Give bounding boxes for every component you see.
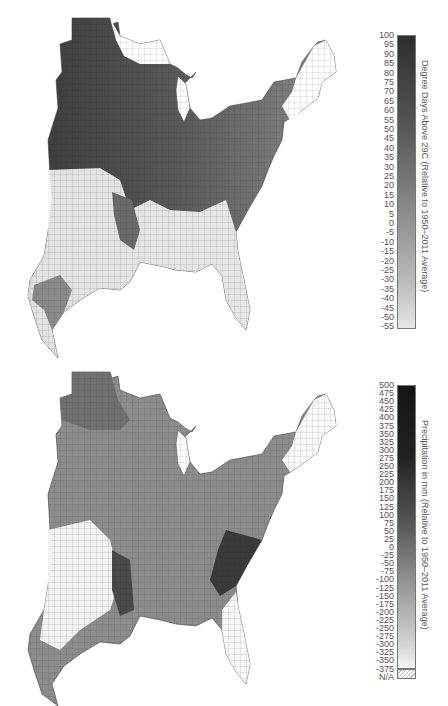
na-label: N/A <box>379 673 394 682</box>
precipitation-colorbar <box>397 385 416 669</box>
tick-label: 60 <box>384 106 394 115</box>
degree-days-colorbar <box>397 35 416 329</box>
tick-label: 85 <box>384 59 394 68</box>
county-grid <box>28 18 336 358</box>
precipitation-tick-labels: 500 475 450 425 400 375 350 325 300 275 … <box>360 360 394 706</box>
precipitation-colorbar-label: Precipitation in mm (Relative to 1950–20… <box>420 420 430 630</box>
precipitation-map <box>0 360 360 706</box>
tick-label: 35 <box>384 153 394 162</box>
degree-days-panel: 100 95 90 85 80 75 70 65 60 55 50 45 40 … <box>0 0 448 360</box>
precipitation-panel: 500 475 450 425 400 375 350 325 300 275 … <box>0 360 448 706</box>
tick-label: -15 <box>381 247 394 256</box>
tick-label: -40 <box>381 294 394 303</box>
county-grid <box>28 372 336 706</box>
degree-days-tick-labels: 100 95 90 85 80 75 70 65 60 55 50 45 40 … <box>360 0 394 360</box>
degree-days-map <box>0 0 360 360</box>
degree-days-colorbar-label: Degree Days Above 29C (Relative to 1950–… <box>420 60 430 292</box>
tick-label: 10 <box>384 200 394 209</box>
na-swatch <box>397 669 416 679</box>
tick-label: -55 <box>381 322 394 331</box>
